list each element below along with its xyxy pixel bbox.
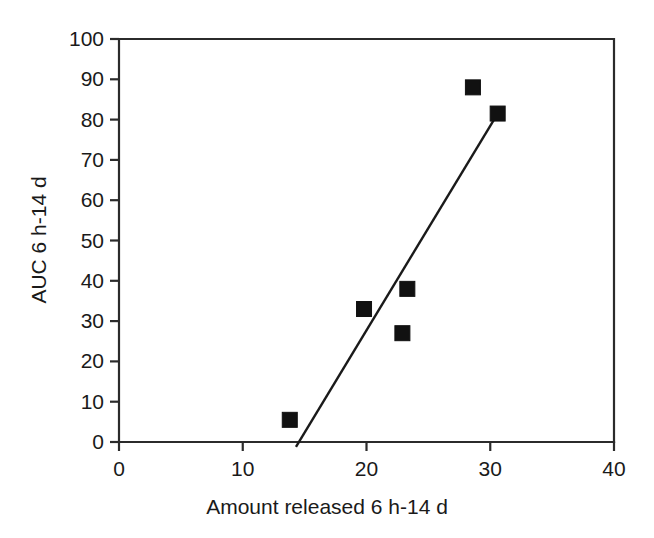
y-tick-label: 50 — [81, 229, 104, 252]
data-point-marker — [357, 302, 372, 317]
axis-left-bottom-spine — [119, 39, 614, 442]
y-tick-label: 100 — [69, 27, 104, 50]
x-axis-title: Amount released 6 h-14 d — [206, 495, 448, 518]
chart-canvas: 0102030405060708090100 010203040 Amount … — [0, 0, 654, 538]
trend-line-group — [296, 114, 498, 447]
y-tick-label: 80 — [81, 108, 104, 131]
x-tick-label: 0 — [113, 457, 125, 480]
data-point-marker — [395, 326, 410, 341]
y-tick-label: 60 — [81, 188, 104, 211]
x-tick-label: 20 — [355, 457, 378, 480]
y-tick-label: 40 — [81, 269, 104, 292]
data-point-marker — [282, 412, 297, 427]
axis-top-right-spine — [119, 39, 614, 442]
y-tick-label: 70 — [81, 148, 104, 171]
tick-marks-group — [110, 39, 614, 451]
x-tick-labels-group: 010203040 — [113, 457, 626, 480]
y-tick-label: 30 — [81, 309, 104, 332]
data-point-marker — [490, 106, 505, 121]
data-point-marker — [465, 80, 480, 95]
scatter-chart-figure: 0102030405060708090100 010203040 Amount … — [0, 0, 654, 538]
x-tick-label: 10 — [231, 457, 254, 480]
data-markers-group — [282, 80, 505, 427]
y-tick-label: 10 — [81, 390, 104, 413]
y-tick-label: 20 — [81, 349, 104, 372]
y-tick-label: 0 — [92, 430, 104, 453]
y-tick-label: 90 — [81, 67, 104, 90]
regression-trend-line — [296, 114, 498, 447]
data-point-marker — [400, 281, 415, 296]
y-axis-title: AUC 6 h-14 d — [27, 176, 50, 303]
y-tick-labels-group: 0102030405060708090100 — [69, 27, 104, 453]
axes-group — [119, 39, 614, 442]
x-tick-label: 30 — [479, 457, 502, 480]
x-tick-label: 40 — [602, 457, 625, 480]
